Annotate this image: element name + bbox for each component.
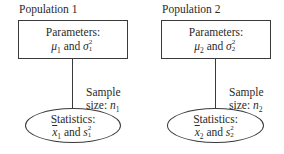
statistics-label: Statistics: — [168, 113, 263, 126]
population-2-title: Population 2 — [162, 3, 220, 15]
population-1-title: Population 1 — [19, 3, 77, 15]
population-1-parameters-box: Parameters: μ1 and σ21 — [18, 20, 128, 59]
parameters-label: Parameters: — [162, 26, 270, 39]
population-2-sample-connector — [215, 59, 216, 108]
population-1-sample-connector — [72, 59, 73, 108]
population-2-parameters-box: Parameters: μ2 and σ22 — [161, 20, 271, 59]
population-1-sample-label: Sample size: n1 — [86, 86, 121, 112]
parameters-formula: μ2 and σ22 — [162, 40, 270, 53]
parameters-formula: μ1 and σ21 — [19, 40, 127, 53]
statistics-formula: x2 and s22 — [168, 126, 263, 139]
statistics-formula: x1 and s21 — [26, 126, 120, 139]
population-2-statistics-ellipse: Statistics: x2 and s22 — [167, 108, 264, 143]
population-1-statistics-ellipse: Statistics: x1 and s21 — [25, 108, 121, 143]
parameters-label: Parameters: — [19, 26, 127, 39]
statistics-label: Statistics: — [26, 113, 120, 126]
population-2-sample-label: Sample size: n2 — [229, 86, 264, 112]
